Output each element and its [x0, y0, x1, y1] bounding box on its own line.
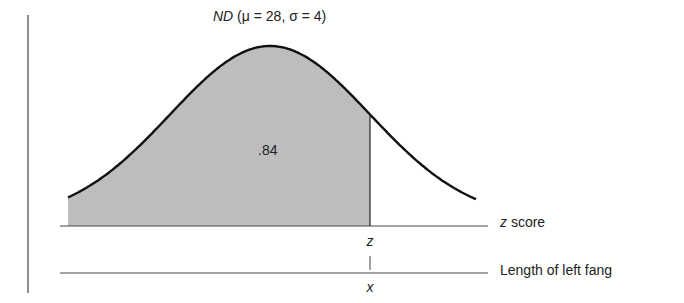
x-marker-label: x — [366, 279, 375, 295]
fang-length-axis-label: Length of left fang — [500, 262, 612, 278]
shaded-area-label: .84 — [258, 142, 278, 158]
title-dist: ND — [213, 8, 233, 24]
z-marker-label: z — [366, 233, 374, 249]
chart-title: ND (μ = 28, σ = 4) — [213, 8, 326, 24]
title-params: (μ = 28, σ = 4) — [233, 8, 326, 24]
shaded-area-region — [68, 46, 370, 226]
normal-distribution-chart: ND (μ = 28, σ = 4) .84 z x z score Lengt… — [0, 0, 684, 303]
z-score-axis-label-rest: score — [507, 214, 545, 230]
z-score-axis-label: z score — [499, 214, 545, 230]
